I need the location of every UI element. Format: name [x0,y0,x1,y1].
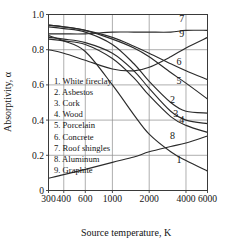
curve-label-5: 5 [176,75,181,86]
legend-entry: 4. Wood [54,109,83,119]
y-axis-title: Absorptivity, α [2,71,13,132]
x-tick-label: 400 [57,193,72,204]
legend-entry: 7. Roof shingles [54,143,111,153]
absorptivity-chart-figure: 3004006001000200040006000 00.20.40.60.81… [0,0,227,243]
curve-label-4: 4 [179,114,184,125]
legend-entry: 1. White fireclay [54,76,113,86]
legend-entry: 9. Graphite [54,165,93,175]
curve-label-2: 2 [170,94,175,105]
x-tick-label: 1000 [103,193,122,204]
curve-label-6: 6 [176,56,181,67]
y-tick-label: 1.0 [32,9,44,20]
y-tick-label: 0.4 [32,115,44,126]
x-tick-label: 600 [78,193,93,204]
legend-entry: 3. Cork [54,98,80,108]
curve-label-1: 1 [176,154,181,165]
y-tick-label: 0.8 [32,44,44,55]
y-tick-label: 0.6 [32,79,44,90]
y-tick-label: 0.2 [32,150,44,161]
x-tick-label: 4000 [176,193,195,204]
x-axis-title: Source temperature, K [81,227,172,238]
legend-entry: 5. Porcelain [54,120,96,130]
curve-label-8: 8 [170,130,175,141]
legend-entry: 8. Aluminum [54,154,100,164]
curve-label-9: 9 [179,28,184,39]
curve-label-7: 7 [179,13,184,24]
curve-label-3: 3 [173,108,178,119]
absorptivity-vs-source-temperature-chart: 3004006001000200040006000 00.20.40.60.81… [0,0,227,243]
legend-entry: 6. Concrete [54,132,94,142]
x-tick-label: 6000 [198,193,217,204]
legend-entry: 2. Asbestos [54,87,94,97]
x-tick-label: 2000 [140,193,159,204]
y-tick-label: 0 [39,185,44,196]
